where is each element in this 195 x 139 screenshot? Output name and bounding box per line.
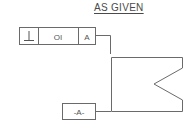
datum-reference: A (84, 33, 90, 42)
gdt-diagram: OI A -A- (0, 0, 195, 139)
part-outline (112, 58, 183, 112)
tolerance-value: OI (54, 33, 62, 42)
perpendicularity-icon (24, 31, 34, 41)
datum-feature-label: -A- (74, 108, 85, 117)
leader-line-frame (96, 36, 111, 55)
